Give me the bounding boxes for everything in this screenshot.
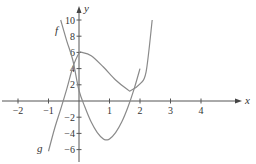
x-axis-arrow-icon xyxy=(235,99,242,104)
y-axis-label: y xyxy=(83,2,89,14)
y-tick-label: 2 xyxy=(70,79,75,90)
function-graph: x y −2−11234 −6−4−2246810 f g xyxy=(0,0,256,164)
curve-g-label: g xyxy=(37,142,43,154)
y-tick-label: 10 xyxy=(65,15,75,26)
y-tick-label: 8 xyxy=(70,31,75,42)
x-tick-label: 1 xyxy=(107,105,112,116)
x-tick-label: 3 xyxy=(168,105,173,116)
x-axis-label: x xyxy=(244,94,250,106)
y-axis-arrow-icon xyxy=(77,6,82,13)
axes: x y xyxy=(2,2,250,162)
x-tick-label: −2 xyxy=(13,105,24,116)
curve-f-label: f xyxy=(55,24,60,36)
y-tick-label: −2 xyxy=(64,112,75,123)
y-tick-label: −6 xyxy=(64,144,75,155)
x-tick-label: 2 xyxy=(138,105,143,116)
x-tick-label: −1 xyxy=(43,105,54,116)
y-tick-label: −4 xyxy=(64,128,75,139)
x-tick-label: 4 xyxy=(199,105,204,116)
